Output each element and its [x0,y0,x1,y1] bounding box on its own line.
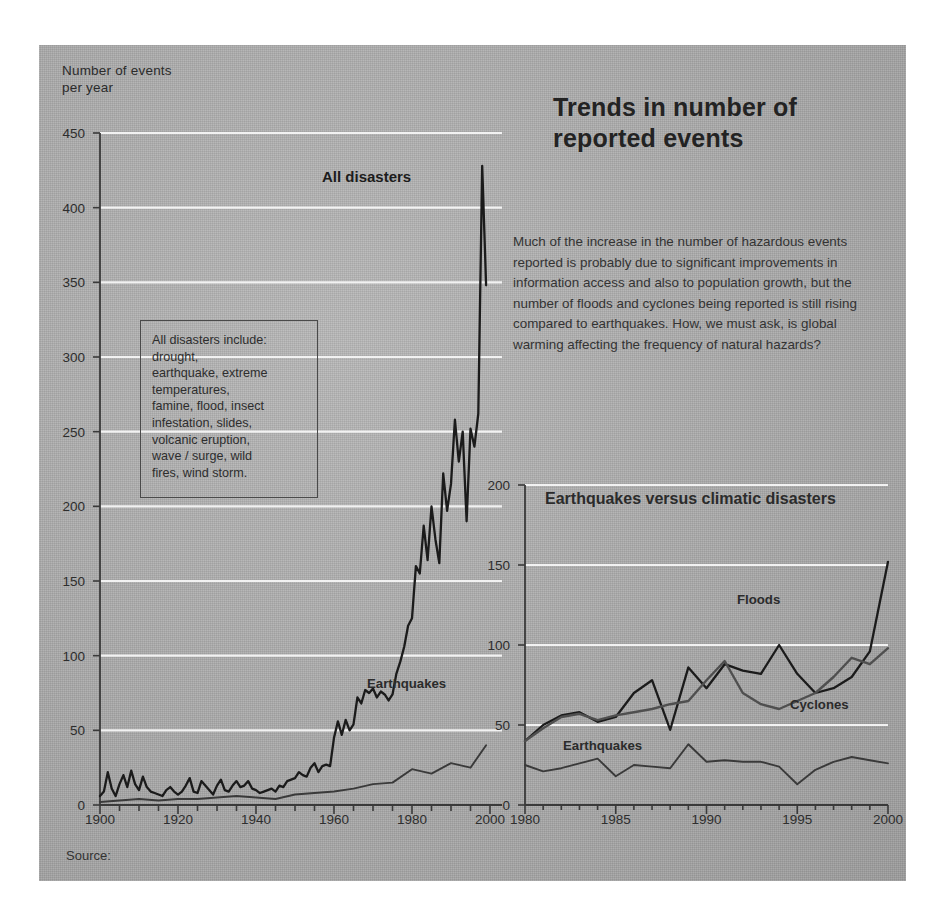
inset-x-tick-label: 2000 [865,812,911,827]
figure-title: Trends in number of reported events [553,92,893,154]
all-disasters-legend-text: All disasters include: drought, earthqua… [152,332,311,481]
main-y-tick-label: 400 [45,200,85,215]
inset-x-tick-label: 1990 [684,812,730,827]
source-label: Source: [66,848,111,863]
inset-x-tick-label: 1995 [774,812,820,827]
main-y-tick-label: 0 [45,798,85,813]
inset-y-tick-label: 100 [470,638,510,653]
series-label-earthquakes-inset: Earthquakes [563,738,642,753]
main-y-tick-label: 350 [45,275,85,290]
inset-x-tick-label: 1985 [593,812,639,827]
series-label-cyclones: Cyclones [790,697,849,712]
y-axis-caption: Number of events per year [62,62,172,96]
main-y-tick-label: 200 [45,499,85,514]
inset-series-cyclones [525,648,888,741]
inset-y-tick-label: 150 [470,558,510,573]
inset-chart-title: Earthquakes versus climatic disasters [545,487,875,510]
figure-root: Number of events per year Trends in numb… [0,0,939,916]
inset-y-tick-label: 50 [470,718,510,733]
main-x-tick-label: 1940 [233,812,279,827]
main-x-tick-label: 1920 [155,812,201,827]
main-y-tick-label: 450 [45,126,85,141]
main-y-tick-label: 100 [45,648,85,663]
main-y-tick-label: 150 [45,574,85,589]
main-x-tick-label: 1900 [77,812,123,827]
all-disasters-legend-box: All disasters include: drought, earthqua… [140,320,318,498]
inset-y-tick-label: 0 [470,798,510,813]
series-label-all-disasters: All disasters [322,168,411,185]
main-y-tick-label: 300 [45,350,85,365]
inset-x-tick-label: 1980 [502,812,548,827]
series-label-floods: Floods [737,592,780,607]
main-y-tick-label: 50 [45,723,85,738]
main-x-tick-label: 1980 [389,812,435,827]
inset-y-tick-label: 200 [470,478,510,493]
figure-body-text: Much of the increase in the number of ha… [513,232,873,355]
series-label-earthquakes-main: Earthquakes [367,676,446,691]
main-x-tick-label: 1960 [311,812,357,827]
main-y-tick-label: 250 [45,424,85,439]
